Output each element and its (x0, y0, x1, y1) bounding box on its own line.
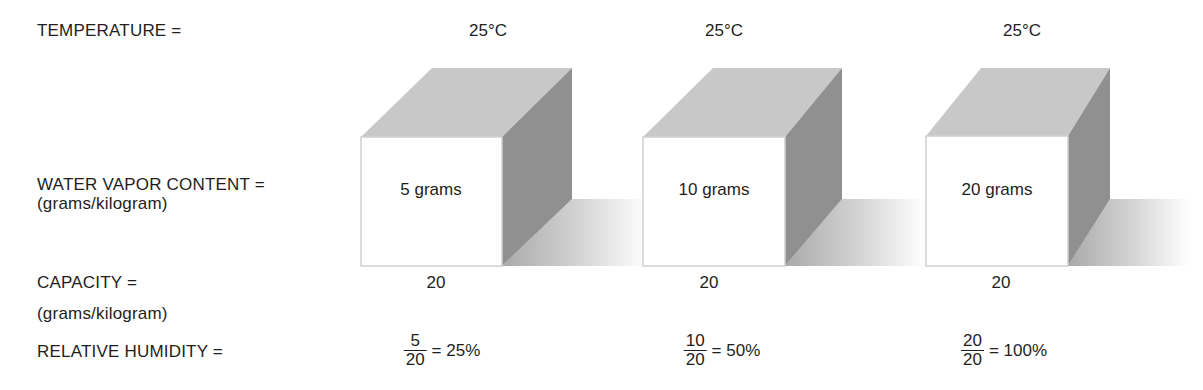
temperature-value-1: 25°C (469, 21, 507, 41)
front-face (643, 137, 785, 266)
fraction-denominator: 20 (404, 350, 427, 369)
fraction: 5 20 (404, 332, 427, 369)
air-parcel-cube-3 (926, 68, 1190, 266)
fraction-denominator: 20 (961, 350, 984, 369)
water-vapor-value-2: 10 grams (679, 180, 750, 200)
relative-humidity-formula-1: 5 20 = 25% (404, 332, 481, 369)
air-parcel-cube-2 (643, 68, 925, 266)
water-vapor-value-3: 20 grams (962, 180, 1033, 200)
fraction-numerator: 5 (408, 332, 421, 350)
water-vapor-label: WATER VAPOR CONTENT = (37, 175, 265, 195)
capacity-value-2: 20 (700, 273, 719, 293)
capacity-label: CAPACITY = (37, 273, 137, 293)
fraction: 10 20 (684, 332, 707, 369)
capacity-unit-label: (grams/kilogram) (37, 304, 168, 324)
water-vapor-value-1: 5 grams (400, 180, 461, 200)
fraction-denominator: 20 (684, 350, 707, 369)
temperature-value-3: 25°C (1003, 21, 1041, 41)
relative-humidity-formula-3: 20 20 = 100% (961, 332, 1047, 369)
relative-humidity-label: RELATIVE HUMIDITY = (37, 342, 223, 362)
relative-humidity-result: = 25% (432, 341, 481, 361)
capacity-value-1: 20 (427, 273, 446, 293)
air-parcel-cube-1 (361, 68, 648, 266)
fraction-numerator: 20 (961, 332, 984, 350)
front-face (361, 137, 502, 266)
front-face (926, 136, 1068, 266)
temperature-label: TEMPERATURE = (37, 21, 181, 41)
relative-humidity-formula-2: 10 20 = 50% (684, 332, 761, 369)
capacity-value-3: 20 (992, 273, 1011, 293)
relative-humidity-result: = 100% (989, 341, 1047, 361)
relative-humidity-result: = 50% (712, 341, 761, 361)
fraction-numerator: 10 (684, 332, 707, 350)
fraction: 20 20 (961, 332, 984, 369)
water-vapor-unit-label: (grams/kilogram) (37, 194, 168, 214)
temperature-value-2: 25°C (705, 21, 743, 41)
